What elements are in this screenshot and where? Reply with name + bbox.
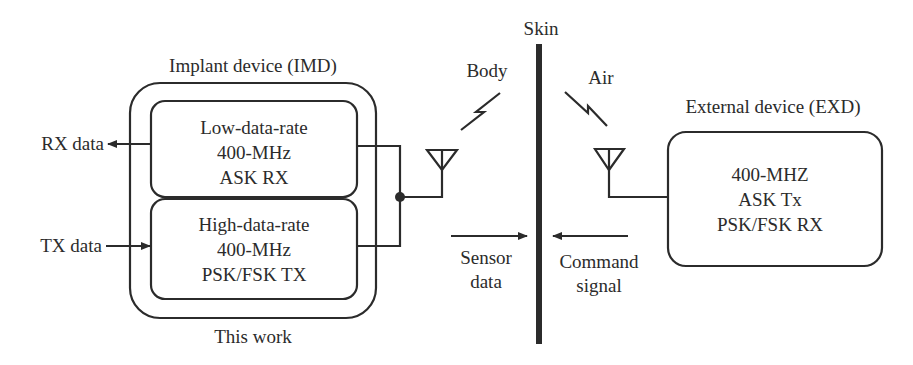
tx-block-line-2: 400-MHz: [217, 239, 291, 260]
body-label: Body: [466, 60, 508, 81]
imd-antenna-wire: [400, 169, 442, 197]
exd-line-2: ASK Tx: [738, 189, 802, 210]
command-label-line-1: Command: [559, 251, 639, 272]
tx-block-line-3: PSK/FSK TX: [202, 264, 307, 285]
rx-block-line-3: ASK RX: [219, 167, 288, 188]
air-label: Air: [588, 67, 614, 88]
exd-antenna-wire: [609, 170, 668, 197]
exd-line-3: PSK/FSK RX: [717, 214, 823, 235]
air-signal-icon: [565, 92, 607, 126]
body-signal-icon: [461, 93, 500, 130]
skin-label: Skin: [524, 18, 559, 39]
imd-title: Implant device (IMD): [169, 55, 337, 77]
exd-line-1: 400-MHZ: [731, 164, 808, 185]
exd-antenna-icon: [595, 149, 624, 170]
imd-feed-wire: [357, 146, 400, 246]
imd-antenna-icon: [427, 150, 457, 170]
sensor-label-line-1: Sensor: [460, 247, 512, 268]
tx-data-label: TX data: [40, 235, 102, 256]
exd-title: External device (EXD): [685, 96, 860, 118]
imd-caption: This work: [214, 326, 292, 347]
diagram-canvas: Skin Implant device (IMD) Low-data-rate …: [0, 0, 913, 365]
command-label-line-2: signal: [576, 275, 621, 296]
rx-block-line-1: Low-data-rate: [200, 117, 308, 138]
rx-data-label: RX data: [41, 133, 104, 154]
rx-block-line-2: 400-MHz: [217, 142, 291, 163]
tx-block-line-1: High-data-rate: [199, 214, 310, 235]
sensor-label-line-2: data: [470, 271, 502, 292]
